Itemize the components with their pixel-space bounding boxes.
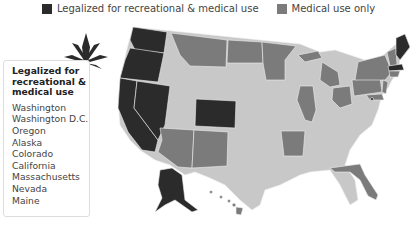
list-item: Alaska — [12, 137, 89, 149]
state-maine — [396, 34, 410, 60]
state-colorado — [195, 99, 236, 128]
box-title: Legalized for recreational & medical use — [12, 66, 89, 98]
recreational-states-box: Legalized for recreational & medical use… — [3, 60, 90, 217]
list-item: Colorado — [12, 148, 89, 160]
state-new-mexico — [192, 130, 228, 168]
state-dc — [371, 98, 374, 101]
list-item: California — [12, 160, 89, 172]
list-item: Nevada — [12, 183, 89, 195]
state-alaska — [155, 168, 198, 212]
list-item: Oregon — [12, 125, 89, 137]
list-item: Maine — [12, 195, 89, 207]
state-north-dakota — [227, 40, 263, 63]
list-item: Massachusetts — [12, 171, 89, 183]
state-new-jersey — [382, 80, 388, 94]
state-arkansas — [281, 131, 305, 156]
list-item: Washington D.C. — [12, 113, 89, 125]
state-connecticut-ri — [389, 71, 400, 77]
recreational-states-list: Washington Washington D.C. Oregon Alaska… — [12, 102, 89, 206]
list-item: Washington — [12, 102, 89, 114]
